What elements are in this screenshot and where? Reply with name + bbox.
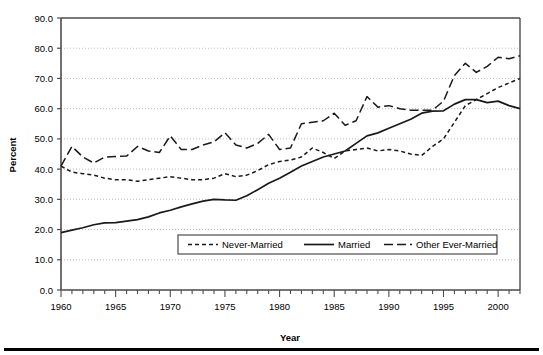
y-tick-label: 0.0	[40, 285, 53, 296]
y-axis-tick-labels: 0.010.020.030.040.050.060.070.080.090.0	[35, 13, 54, 296]
bottom-divider-rule	[4, 348, 539, 351]
x-axis-title: Year	[280, 332, 300, 343]
y-tick-label: 70.0	[35, 73, 54, 84]
y-tick-label: 90.0	[35, 13, 54, 24]
series-line	[61, 78, 520, 181]
x-axis-tick-labels: 196019651970197519801985199019952000	[50, 301, 508, 312]
legend-label: Other Ever-Married	[416, 239, 497, 250]
y-tick-label: 30.0	[35, 194, 54, 205]
x-tick-label: 1985	[324, 301, 345, 312]
x-tick-label: 1980	[269, 301, 290, 312]
line-chart: 0.010.020.030.040.050.060.070.080.090.0 …	[0, 0, 543, 355]
y-tick-label: 50.0	[35, 133, 54, 144]
x-tick-label: 1965	[105, 301, 126, 312]
y-tick-label: 20.0	[35, 224, 54, 235]
x-tick-label: 1975	[214, 301, 235, 312]
data-series	[61, 56, 520, 233]
series-line	[61, 100, 520, 233]
chart-figure: 0.010.020.030.040.050.060.070.080.090.0 …	[0, 0, 543, 355]
y-tick-label: 60.0	[35, 103, 54, 114]
legend-label: Never-Married	[222, 239, 283, 250]
y-axis-title: Percent	[7, 137, 18, 173]
y-tick-label: 10.0	[35, 254, 54, 265]
x-tick-label: 1995	[433, 301, 454, 312]
axis-ticks	[57, 18, 520, 297]
x-tick-label: 2000	[488, 301, 509, 312]
chart-legend: Never-MarriedMarriedOther Ever-Married	[178, 235, 497, 254]
x-tick-label: 1970	[160, 301, 181, 312]
y-tick-label: 40.0	[35, 164, 54, 175]
legend-label: Married	[338, 239, 370, 250]
y-tick-label: 80.0	[35, 43, 54, 54]
series-line	[61, 56, 520, 166]
x-tick-label: 1960	[50, 301, 71, 312]
x-tick-label: 1990	[378, 301, 399, 312]
